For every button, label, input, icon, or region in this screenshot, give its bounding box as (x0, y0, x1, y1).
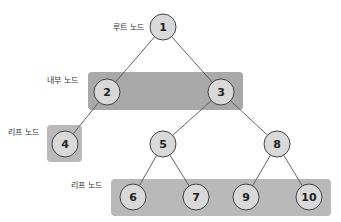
left-leaf-node-label: 리프 노드 (8, 128, 39, 137)
tree-node-5: 5 (150, 131, 176, 157)
node-value: 10 (301, 191, 317, 204)
root-node-label: 루트 노드 (113, 23, 144, 32)
node-value: 6 (129, 191, 137, 204)
node-value: 7 (192, 191, 200, 204)
edge-3-8 (231, 101, 268, 135)
node-value: 5 (159, 138, 167, 151)
node-value: 8 (273, 138, 281, 151)
internal-node-label: 내부 노드 (47, 76, 78, 85)
node-value: 4 (61, 138, 69, 151)
tree-node-6: 6 (120, 184, 146, 210)
tree-node-10: 10 (296, 184, 322, 210)
tree-node-7: 7 (183, 184, 209, 210)
bottom-leaf-node-label: 리프 노드 (71, 181, 102, 190)
tree-node-3: 3 (208, 79, 234, 105)
tree-node-4: 4 (52, 131, 78, 157)
node-value: 1 (159, 21, 167, 34)
tree-node-1: 1 (150, 14, 176, 40)
tree-node-9: 9 (233, 184, 259, 210)
node-value: 9 (242, 191, 250, 204)
tree-node-2: 2 (94, 79, 120, 105)
edge-2-4 (73, 102, 99, 134)
node-value: 2 (103, 86, 111, 99)
node-value: 3 (217, 86, 225, 99)
tree-node-8: 8 (264, 131, 290, 157)
tree-diagram: 12345867910 루트 노드 내부 노드 리프 노드 리프 노드 (0, 0, 341, 222)
tree-edges (73, 37, 302, 186)
